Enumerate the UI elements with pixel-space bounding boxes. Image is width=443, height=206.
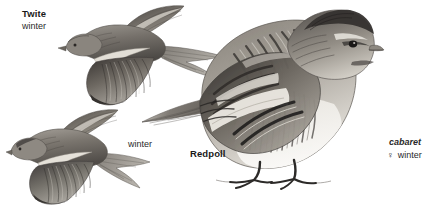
female-symbol-icon: ♀ bbox=[387, 150, 394, 160]
bird-illustration-plate: Twite winter winter Redpoll cabaret ♀ wi… bbox=[0, 0, 443, 206]
label-twite-season: winter bbox=[22, 21, 46, 31]
redpoll-flying-artwork bbox=[6, 110, 150, 205]
label-cabaret-season: winter bbox=[398, 150, 422, 160]
label-cabaret-sex-season: ♀ winter bbox=[387, 150, 422, 160]
redpoll-perched-artwork bbox=[142, 10, 384, 189]
label-twite-name: Twite bbox=[22, 9, 46, 20]
label-cabaret-race: cabaret bbox=[389, 137, 421, 147]
label-redpoll-season: winter bbox=[128, 139, 152, 149]
label-redpoll-name: Redpoll bbox=[190, 149, 226, 160]
figure-redpoll-perched bbox=[138, 2, 378, 197]
figure-redpoll-flying bbox=[6, 108, 156, 204]
